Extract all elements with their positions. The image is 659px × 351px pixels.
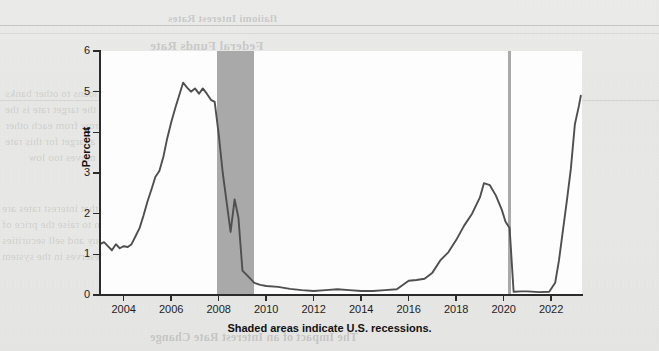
x-tick-2010 — [265, 295, 267, 301]
x-tick-2014 — [360, 295, 362, 301]
x-tick-label-2022: 2022 — [531, 303, 571, 315]
y-tick-label-6: 6 — [74, 44, 90, 56]
y-tick-1 — [93, 254, 100, 256]
y-tick-5 — [93, 91, 100, 93]
y-tick-0 — [93, 294, 100, 296]
y-tick-6 — [93, 50, 100, 52]
x-tick-2020 — [503, 295, 505, 301]
x-tick-2016 — [408, 295, 410, 301]
y-tick-label-2: 2 — [74, 207, 90, 219]
scanned-page: flaiiomi Interest Rates Federal Funds Ra… — [0, 0, 659, 351]
x-tick-label-2016: 2016 — [389, 303, 429, 315]
x-tick-label-2018: 2018 — [436, 303, 476, 315]
y-tick-label-0: 0 — [74, 288, 90, 300]
chart-caption: Shaded areas indicate U.S. recessions. — [0, 322, 659, 334]
x-tick-2022 — [550, 295, 552, 301]
plot-area — [100, 51, 582, 295]
x-tick-2012 — [313, 295, 315, 301]
x-tick-label-2006: 2006 — [151, 303, 191, 315]
x-tick-2006 — [170, 295, 172, 301]
x-tick-2018 — [455, 295, 457, 301]
x-tick-2004 — [123, 295, 125, 301]
x-tick-2008 — [218, 295, 220, 301]
x-tick-label-2020: 2020 — [484, 303, 524, 315]
x-tick-label-2012: 2012 — [294, 303, 334, 315]
x-tick-label-2008: 2008 — [199, 303, 239, 315]
y-tick-4 — [93, 132, 100, 134]
y-tick-label-1: 1 — [74, 247, 90, 259]
x-tick-label-2014: 2014 — [341, 303, 381, 315]
x-tick-label-2004: 2004 — [104, 303, 144, 315]
y-axis-label: Percent — [80, 117, 92, 177]
interest-rate-line — [100, 51, 582, 295]
federal-funds-rate-chart: 0123456 20042006200820102012201420162018… — [0, 0, 659, 351]
y-tick-label-5: 5 — [74, 85, 90, 97]
y-tick-3 — [93, 172, 100, 174]
x-tick-label-2010: 2010 — [246, 303, 286, 315]
y-tick-2 — [93, 213, 100, 215]
